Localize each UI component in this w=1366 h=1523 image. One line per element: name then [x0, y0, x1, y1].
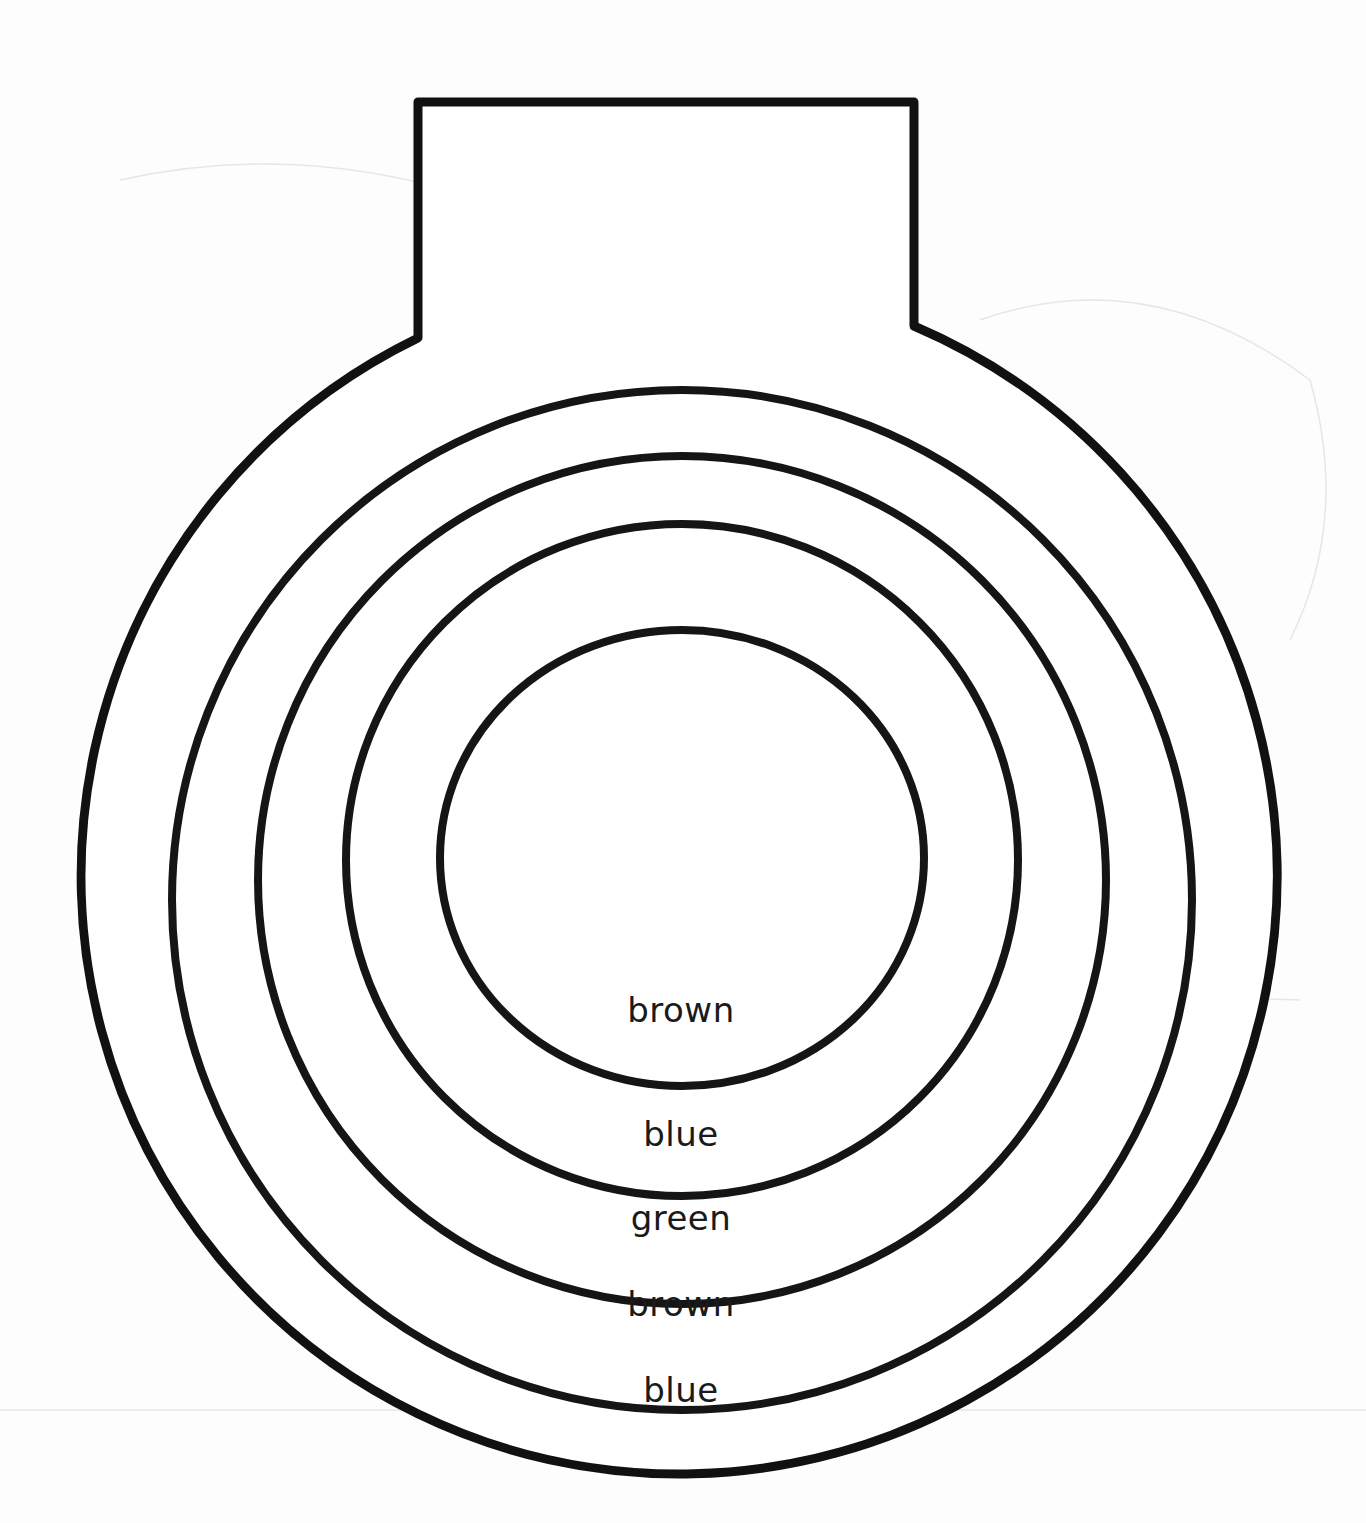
ring-label-band2: blue — [643, 1114, 719, 1154]
ring-label-inner: brown — [627, 990, 734, 1030]
ring-label-band4: brown — [627, 1284, 734, 1324]
worksheet-page: brown blue green brown blue — [0, 0, 1366, 1523]
ring-label-band5: blue — [643, 1370, 719, 1410]
ring-label-band3: green — [631, 1198, 732, 1238]
coloring-ornament-figure: brown blue green brown blue — [0, 0, 1366, 1523]
